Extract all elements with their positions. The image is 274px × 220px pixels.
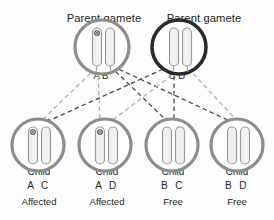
parent-right-chromosome-D (183, 28, 192, 66)
line-B-to-child-3 (110, 66, 168, 122)
child-3-chromosome-B (163, 127, 172, 164)
line-A-to-child-2 (98, 68, 100, 124)
connection-lines-group (38, 66, 240, 124)
child-4-chromosome-D (241, 127, 250, 164)
inheritance-svg-canvas (0, 0, 274, 220)
line-D-to-child-4 (188, 68, 240, 124)
mutation-dot-core-icon (99, 131, 101, 133)
child-1-gamete (12, 119, 64, 171)
child-3-gamete (146, 119, 198, 171)
mutation-dot-core-icon (32, 131, 34, 133)
child-2-gamete (79, 119, 131, 171)
parent-right-chromosome-C (170, 28, 179, 66)
child-3-chromosome-C (176, 127, 185, 164)
child-4-chromosome-B (228, 127, 237, 164)
line-A-to-child-1 (38, 68, 96, 124)
mutation-dot-core-icon (96, 32, 98, 34)
parent-right-gamete (152, 20, 206, 74)
child-2-chromosome-D (109, 127, 118, 164)
parent-left-chromosome-B (106, 28, 115, 66)
child-1-chromosome-C (42, 127, 51, 164)
child-4-gamete (211, 119, 263, 171)
parent-left-gamete (75, 20, 129, 74)
genetics-inheritance-diagram: Parent gamete Parent gamete A B C D Chil… (0, 0, 274, 220)
